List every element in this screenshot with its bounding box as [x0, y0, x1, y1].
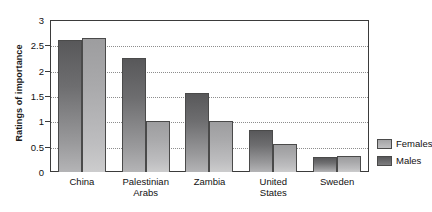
legend-label-males: Males: [396, 155, 421, 166]
x-axis-tick-label-line: China: [50, 176, 114, 187]
legend-item-females: Females: [377, 138, 424, 149]
x-axis-tick-label-line: Sweden: [305, 176, 369, 187]
y-axis-tick-label: 1.5: [4, 91, 44, 102]
bars-layer: [50, 20, 369, 172]
legend-label-females: Females: [396, 138, 432, 149]
y-axis-tick-label: 1: [4, 116, 44, 127]
bar-females: [209, 121, 233, 172]
chart-legend: Females Males: [377, 138, 424, 172]
legend-item-males: Males: [377, 155, 424, 166]
x-axis-tick-label-line: United: [241, 176, 305, 187]
x-axis-tick-label: Zambia: [178, 176, 242, 187]
bar-group: [305, 20, 369, 172]
bar-males: [313, 157, 337, 172]
x-axis-tick-label-line: States: [241, 187, 305, 198]
bar-group: [241, 20, 305, 172]
bar-females: [146, 121, 170, 172]
bar-females: [82, 38, 106, 172]
y-axis-tick-label: 2.5: [4, 40, 44, 51]
x-axis-tick-label: China: [50, 176, 114, 187]
x-axis-tick-label-line: Arabs: [114, 187, 178, 198]
bar-males: [249, 130, 273, 172]
x-axis-tick-label: Sweden: [305, 176, 369, 187]
bar-males: [122, 58, 146, 172]
bar-females: [337, 156, 361, 172]
females-swatch-icon: [377, 139, 392, 149]
x-axis-tick-label: UnitedStates: [241, 176, 305, 198]
x-axis-tick-label-line: Palestinian: [114, 176, 178, 187]
y-axis-tick-label: 3: [4, 15, 44, 26]
y-axis-tick-label: 0: [4, 167, 44, 178]
bar-group: [50, 20, 114, 172]
y-axis-tick-label: 0.5: [4, 141, 44, 152]
bar-females: [273, 144, 297, 172]
bar-group: [178, 20, 242, 172]
y-axis-tick-label: 2: [4, 65, 44, 76]
x-axis-tick-label-line: Zambia: [178, 176, 242, 187]
bar-group: [114, 20, 178, 172]
males-swatch-icon: [377, 156, 392, 166]
x-axis-tick-label: PalestinianArabs: [114, 176, 178, 198]
bar-males: [58, 40, 82, 172]
bar-males: [185, 93, 209, 172]
